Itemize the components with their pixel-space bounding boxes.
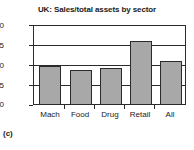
bar-series [33, 25, 186, 105]
x-axis-tick-mark-1 [64, 105, 65, 109]
bar-mach [39, 66, 61, 105]
chart-figure: UK: Sales/total assets by sector 2.0 1.5… [0, 0, 194, 150]
bar-all [160, 61, 182, 105]
y-axis-tick-label-1-5: 1.5 [0, 42, 4, 50]
bar-food [70, 70, 92, 105]
bar-drug [100, 68, 122, 105]
panel-caption: (c) [3, 129, 13, 138]
y-axis-tick-mark-0-0 [29, 105, 33, 106]
chart-title: UK: Sales/total assets by sector [0, 5, 194, 14]
x-axis-label-all: All [152, 110, 188, 119]
bar-retail [130, 41, 152, 105]
y-axis-tick-label-0-5: 0.5 [0, 82, 4, 90]
y-axis-tick-label-1-0: 1.0 [0, 62, 4, 70]
x-axis-tick-mark-3 [124, 105, 125, 109]
y-axis-tick-label-2-0: 2.0 [0, 22, 4, 30]
x-axis-tick-mark-2 [94, 105, 95, 109]
x-axis-tick-mark-4 [154, 105, 155, 109]
y-axis-tick-label-0-0: 0.0 [0, 101, 4, 109]
